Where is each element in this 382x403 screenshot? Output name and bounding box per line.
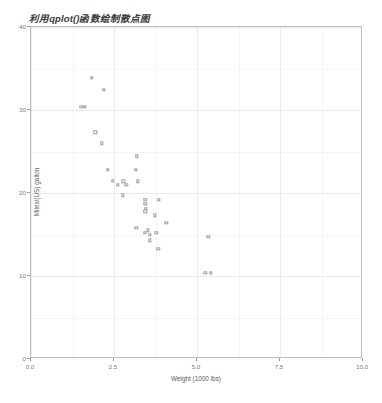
gridline-major-vertical — [280, 27, 281, 357]
data-point — [116, 183, 119, 186]
y-tick-mark — [27, 275, 30, 276]
x-tick-label: 7.5 — [275, 363, 284, 370]
gridline-major-vertical — [114, 27, 115, 357]
x-tick-label: 2.5 — [109, 363, 118, 370]
gridline-minor-horizontal — [31, 235, 361, 236]
x-tick-label: 5.0 — [192, 363, 201, 370]
data-point — [94, 131, 97, 134]
chart-title: 利用qplot()函数绘制散点图 — [29, 11, 150, 25]
gridline-minor-vertical — [156, 27, 157, 357]
x-tick-mark — [113, 358, 114, 361]
data-point — [157, 198, 160, 201]
data-point — [80, 105, 83, 108]
gridline-major-horizontal — [31, 193, 361, 194]
data-point — [144, 210, 147, 213]
gridline-major-horizontal — [31, 276, 361, 277]
gridline-major-horizontal — [31, 110, 361, 111]
data-point — [106, 168, 109, 171]
data-point — [164, 221, 167, 224]
data-point — [209, 271, 212, 274]
gridline-major-horizontal — [31, 27, 361, 28]
y-tick-mark — [27, 192, 30, 193]
data-point — [100, 141, 103, 144]
y-tick-label: 30 — [19, 106, 26, 113]
gridline-minor-vertical — [322, 27, 323, 357]
gridline-minor-horizontal — [31, 69, 361, 70]
gridline-minor-horizontal — [31, 152, 361, 153]
data-point — [136, 180, 139, 183]
data-point — [207, 235, 210, 238]
data-point — [204, 271, 207, 274]
x-tick-mark — [362, 358, 363, 361]
data-point — [153, 214, 156, 217]
data-point — [135, 226, 138, 229]
x-tick-mark — [196, 358, 197, 361]
data-point — [148, 239, 151, 242]
x-tick-label: 0.0 — [26, 363, 35, 370]
y-tick-label: 0 — [23, 355, 26, 362]
x-tick-label: 10.0 — [356, 363, 368, 370]
data-point — [122, 180, 125, 183]
y-tick-mark — [27, 358, 30, 359]
qplot-scatter-figure: 利用qplot()函数绘制散点图 0.02.55.07.510.0 010203… — [0, 0, 382, 403]
gridline-minor-horizontal — [31, 318, 361, 319]
data-point — [155, 231, 158, 234]
data-point — [111, 179, 114, 182]
data-point — [135, 155, 138, 158]
x-axis-title: Weight (1000 lbs) — [171, 375, 221, 382]
gridline-major-vertical — [197, 27, 198, 357]
plot-panel — [30, 26, 362, 358]
data-point — [134, 168, 137, 171]
y-tick-label: 40 — [19, 23, 26, 30]
data-point — [83, 105, 86, 108]
gridline-minor-vertical — [73, 27, 74, 357]
y-tick-label: 20 — [19, 189, 26, 196]
data-point — [121, 194, 124, 197]
data-point — [90, 76, 93, 79]
data-point — [144, 198, 147, 201]
y-tick-label: 10 — [19, 272, 26, 279]
data-point — [144, 202, 147, 205]
data-point — [157, 247, 160, 250]
data-point — [125, 183, 128, 186]
y-tick-mark — [27, 109, 30, 110]
data-point — [148, 233, 151, 236]
data-point — [143, 231, 146, 234]
y-axis-title: Miles/(US) gallon — [33, 168, 40, 217]
y-tick-mark — [27, 26, 30, 27]
gridline-minor-vertical — [239, 27, 240, 357]
data-point — [102, 88, 105, 91]
x-tick-mark — [279, 358, 280, 361]
x-tick-mark — [30, 358, 31, 361]
